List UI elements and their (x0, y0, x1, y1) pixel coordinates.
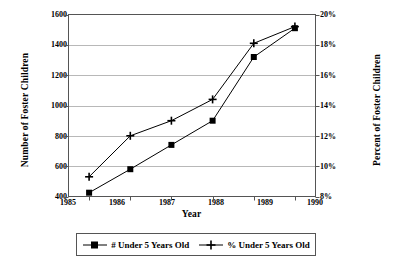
data-point-number-1987 (168, 142, 174, 148)
axis-ticks (65, 16, 320, 201)
data-point-number-1986 (127, 166, 133, 172)
series-line-percent (89, 27, 295, 177)
legend-entry-percent: % Under 5 Years Old (198, 240, 310, 250)
data-point-number-1988 (210, 118, 216, 124)
chart-container: Number of Foster Children Percent of Fos… (0, 0, 398, 262)
plot-area (0, 0, 398, 262)
chart-legend: # Under 5 Years Old % Under 5 Years Old (76, 233, 316, 256)
plus-marker-icon (198, 240, 224, 250)
gridlines (69, 46, 316, 167)
square-marker-icon (82, 240, 108, 250)
data-series-layer (85, 23, 299, 196)
data-point-number-1985 (86, 190, 92, 196)
data-point-number-1989 (251, 54, 257, 60)
legend-label-percent: % Under 5 Years Old (227, 240, 310, 250)
legend-label-number: # Under 5 Years Old (111, 240, 189, 250)
legend-entry-number: # Under 5 Years Old (82, 240, 189, 250)
plot-frame (69, 15, 316, 197)
